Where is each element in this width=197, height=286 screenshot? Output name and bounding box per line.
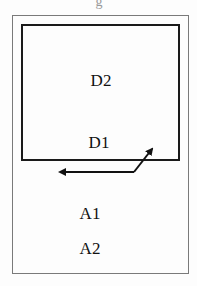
- diagram-canvas: g D2 D1 A1 A2: [0, 0, 197, 286]
- bent-arrow-icon: [0, 0, 197, 286]
